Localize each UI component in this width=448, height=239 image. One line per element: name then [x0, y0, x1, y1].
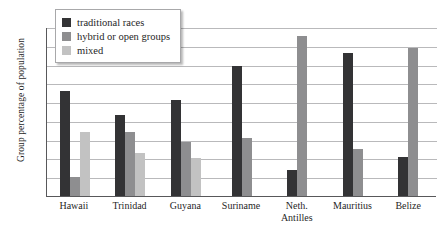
bar-traditional: [232, 66, 242, 196]
bar-hybrid: [353, 149, 363, 196]
legend-item: hybrid or open groups: [62, 29, 170, 43]
x-tick-label: Belize: [380, 200, 436, 223]
legend-swatch-hybrid: [62, 32, 71, 41]
bar-hybrid: [408, 48, 418, 196]
legend-label: traditional races: [77, 17, 144, 28]
x-tick-label: Trinidad: [102, 200, 158, 223]
legend-item: mixed: [62, 43, 170, 57]
bar-mixed: [191, 158, 201, 196]
bar-mixed: [135, 153, 145, 196]
x-tick-label: Guyana: [157, 200, 213, 223]
bar-group: [380, 28, 436, 196]
bar-chart: Group percentage of population 010203040…: [0, 0, 448, 239]
bar-hybrid: [125, 132, 135, 196]
legend-swatch-traditional: [62, 18, 71, 27]
bar-group: [325, 28, 381, 196]
x-tick-label-line: Antilles: [269, 212, 325, 224]
x-tick-label: Suriname: [213, 200, 269, 223]
x-tick-label-line: Trinidad: [102, 200, 158, 212]
legend-swatch-mixed: [62, 46, 71, 55]
bar-group: [269, 28, 325, 196]
bar-traditional: [343, 53, 353, 196]
legend-label: mixed: [77, 45, 103, 56]
x-axis-labels: HawaiiTrinidadGuyanaSurinameNeth.Antille…: [46, 200, 436, 223]
bar-traditional: [115, 115, 125, 196]
x-tick-label: Hawaii: [46, 200, 102, 223]
bar-traditional: [171, 100, 181, 196]
legend-label: hybrid or open groups: [77, 31, 170, 42]
x-tick-label-line: Guyana: [157, 200, 213, 212]
x-tick-label-line: Hawaii: [46, 200, 102, 212]
bar-hybrid: [70, 177, 80, 196]
x-tick-label: Mauritius: [325, 200, 381, 223]
bar-traditional: [60, 91, 70, 196]
bar-hybrid: [242, 138, 252, 196]
bar-group: [214, 28, 270, 196]
y-axis-title: Group percentage of population: [16, 15, 26, 185]
bar-mixed: [80, 132, 90, 196]
bar-hybrid: [181, 142, 191, 196]
bar-traditional: [398, 157, 408, 196]
bar-hybrid: [297, 36, 307, 196]
chart-legend: traditional raceshybrid or open groupsmi…: [55, 9, 181, 63]
legend-item: traditional races: [62, 15, 170, 29]
x-tick-label-line: Suriname: [213, 200, 269, 212]
x-tick-label-line: Neth.: [269, 200, 325, 212]
x-tick-label-line: Belize: [380, 200, 436, 212]
x-tick-label-line: Mauritius: [325, 200, 381, 212]
x-tick-label: Neth.Antilles: [269, 200, 325, 223]
bar-traditional: [287, 170, 297, 196]
